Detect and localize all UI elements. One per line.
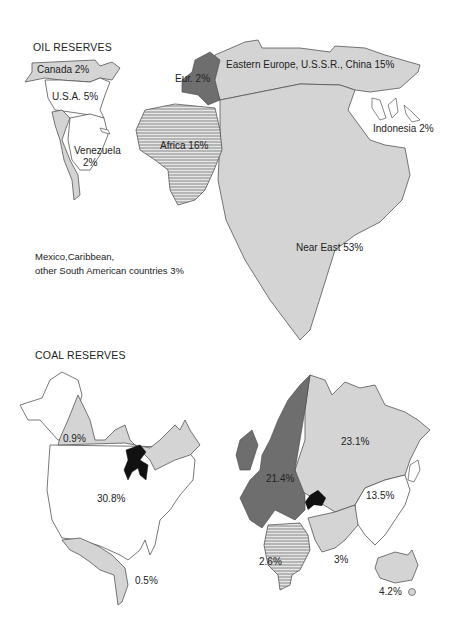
coal-europe-label: 21.4% (266, 473, 294, 484)
coal-japan-islands (408, 460, 420, 482)
oil-indonesia-island-1 (372, 98, 386, 120)
coal-tasmania (409, 589, 416, 596)
oil-indonesia-label: Indonesia 2% (373, 123, 434, 134)
oil-title: OIL RESERVES (33, 41, 112, 53)
coal-australia-label: 4.2% (379, 586, 402, 597)
coal-ussr-label: 23.1% (341, 436, 369, 447)
coal-china-label: 13.5% (366, 490, 394, 501)
oil-indonesia-island-2 (388, 98, 398, 118)
oil-near-east-label: Near East 53% (296, 242, 363, 253)
coal-title: COAL RESERVES (35, 349, 126, 361)
oil-indonesia-island-3 (404, 105, 420, 122)
oil-eastern-label: Eastern Europe, U.S.S.R., China 15% (226, 59, 394, 70)
coal-africa-label: 2.6% (259, 556, 282, 567)
coal-latam-label: 0.5% (135, 575, 158, 586)
coal-scandinavia-west (236, 430, 258, 470)
oil-mexico-label-2: other South American countries 3% (35, 265, 184, 276)
oil-usa-label: U.S.A. 5% (52, 91, 98, 102)
coal-south-asia-region (308, 505, 358, 552)
oil-africa-label: Africa 16% (160, 140, 208, 151)
oil-africa-region (136, 104, 222, 205)
oil-canada-label: Canada 2% (37, 64, 89, 75)
coal-south-asia-label: 3% (334, 554, 348, 565)
oil-mexico-label-1: Mexico,Caribbean, (35, 251, 114, 262)
oil-eur-label: Eur. 2% (175, 73, 210, 84)
oil-venezuela-label-2: 2% (83, 157, 97, 168)
coal-australia-region (375, 550, 418, 583)
coal-usa-label: 30.8% (97, 493, 125, 504)
coal-canada-label: 0.9% (63, 433, 86, 444)
oil-venezuela-label-1: Venezuela (74, 145, 121, 156)
